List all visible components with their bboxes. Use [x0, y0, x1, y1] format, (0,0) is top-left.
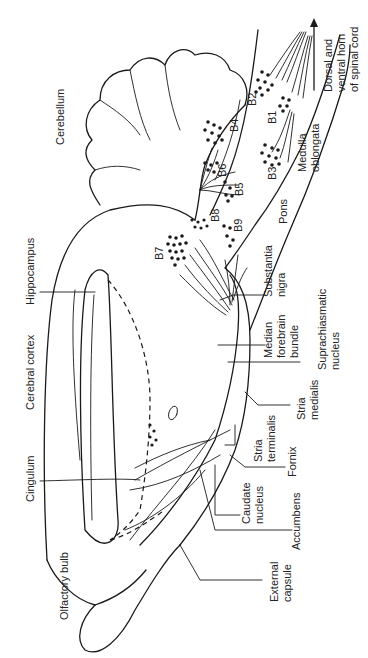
label-b9: B9 — [232, 219, 244, 232]
label-fornix: Fornix — [286, 446, 298, 477]
hippocampus-outline — [80, 270, 118, 543]
label-suprachiasmatic-nucleus: Suprachiasmatic nucleus — [316, 286, 341, 370]
labels: Cerebellum Hippocampus Cerebral cortex C… — [24, 27, 360, 620]
label-b3: B3 — [266, 167, 278, 180]
raphe-projection-diagram: Cerebellum Hippocampus Cerebral cortex C… — [0, 0, 368, 658]
label-external-capsule: External capsule — [268, 559, 293, 602]
b4-cluster — [203, 120, 224, 145]
label-cingulum: Cingulum — [24, 456, 36, 502]
label-cerebellum: Cerebellum — [54, 89, 66, 145]
label-spinal-cord: Dorsal and ventral horn of spinal cord — [322, 27, 360, 92]
b7-cluster — [166, 234, 188, 267]
label-b1: B1 — [266, 111, 278, 124]
label-hippocampus: Hippocampus — [24, 237, 36, 305]
brain-outline — [40, 30, 350, 652]
label-caudate-nucleus: Caudate nucleus — [240, 479, 265, 524]
label-b4: B4 — [228, 119, 240, 132]
label-stria-terminalis: Stria terminalis — [252, 414, 277, 462]
label-medulla-oblongata: Medulla oblongata — [296, 123, 321, 172]
label-b5: B5 — [233, 183, 245, 196]
label-b8: B8 — [209, 209, 221, 222]
b8-cluster — [190, 218, 208, 229]
arrow-up-icon — [310, 18, 318, 27]
olfactory-bulb-outline — [80, 545, 180, 652]
label-olfactory-bulb: Olfactory bulb — [58, 552, 70, 620]
b3-cluster — [260, 143, 281, 167]
label-b6: B6 — [216, 164, 228, 177]
label-b2: B2 — [246, 93, 258, 106]
label-accumbens: Accumbens — [290, 492, 302, 550]
b1-cluster — [278, 96, 291, 113]
label-pons: Pons — [277, 198, 289, 224]
label-b7: B7 — [153, 247, 165, 260]
label-cerebral-cortex: Cerebral cortex — [24, 334, 36, 410]
label-median-forebrain-bundle: Median forebrain bundle — [262, 312, 300, 358]
label-stria-medialis: Stria medialis — [295, 379, 320, 420]
